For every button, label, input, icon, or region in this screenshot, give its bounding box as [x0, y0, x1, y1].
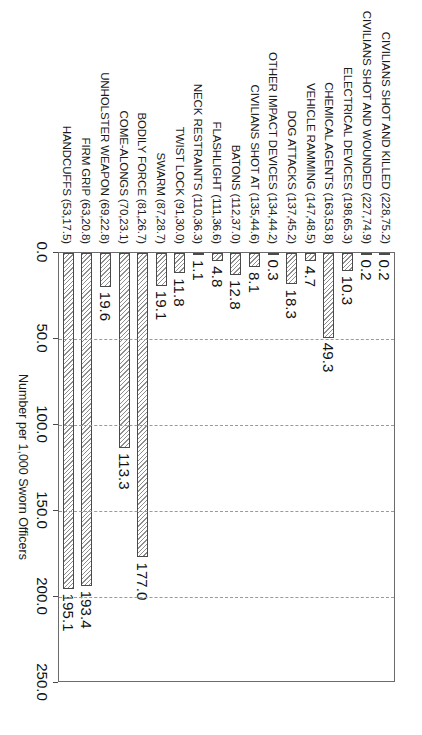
bar-row[interactable]: 0.2 [357, 253, 376, 681]
category-label: NECK RESTRAINTS (110,36.3) [189, 0, 208, 248]
gridline [59, 511, 394, 512]
category-label: FIRM GRIP (63,20.8) [77, 0, 96, 248]
gridline [59, 339, 394, 340]
bar-row[interactable]: 8.1 [245, 253, 264, 681]
category-label: VEHICLE RAMMING (147,48.5) [301, 0, 320, 248]
bar-value-label: 0.2 [376, 260, 393, 281]
bar-row[interactable]: 12.8 [227, 253, 246, 681]
bar-row[interactable]: 195.1 [59, 253, 78, 681]
bar[interactable] [119, 253, 130, 448]
bar[interactable] [268, 253, 279, 255]
category-label: CIVILIANS SHOT AND KILLED (228,75.2) [376, 0, 395, 248]
bar[interactable] [193, 253, 204, 255]
bar[interactable] [212, 253, 223, 261]
axis-tick [53, 510, 58, 511]
gridline [59, 597, 394, 598]
bar-value-label: 10.3 [339, 276, 356, 306]
bar-row[interactable]: 193.4 [78, 253, 97, 681]
bar-row[interactable]: 19.1 [152, 253, 171, 681]
axis-tick-label: 100.0 [34, 405, 51, 443]
axis-tick-label: 200.0 [34, 577, 51, 615]
category-label: UNHOLSTER WEAPON (69,22.8) [96, 0, 115, 248]
bar-value-label: 177.0 [134, 562, 151, 600]
category-axis-labels: CIVILIANS SHOT AND KILLED (228,75.2)CIVI… [58, 0, 395, 248]
bar[interactable] [63, 253, 74, 589]
bar-value-label: 19.6 [97, 292, 114, 322]
category-label: ELECTRICAL DEVICES (198,65.3) [339, 0, 358, 248]
bar[interactable] [230, 253, 241, 275]
bar-value-label: 0.2 [358, 260, 375, 281]
bar-value-label: 1.1 [190, 260, 207, 281]
bar-row[interactable]: 4.7 [301, 253, 320, 681]
plot-area: 0.20.210.349.34.718.30.38.112.84.81.111.… [58, 252, 395, 682]
bar-row[interactable]: 19.6 [96, 253, 115, 681]
axis-tick [53, 682, 58, 683]
bar-row[interactable]: 0.2 [375, 253, 394, 681]
bar-value-label: 113.3 [116, 453, 133, 490]
axis-tick [53, 252, 58, 253]
bar-row[interactable]: 0.3 [264, 253, 283, 681]
axis-tick-label: 250.0 [34, 663, 51, 701]
bar-rows: 0.20.210.349.34.718.30.38.112.84.81.111.… [59, 253, 394, 681]
axis-tick-label: 50.0 [34, 323, 51, 352]
x-axis-title: Number per 1,000 Sworn Officers [16, 252, 30, 682]
bar-value-label: 49.3 [320, 343, 337, 373]
category-label: BATONS (112,37.0) [227, 0, 246, 248]
bar-value-label: 18.3 [283, 289, 300, 319]
bar[interactable] [81, 253, 92, 586]
axis-tick [53, 424, 58, 425]
bar-row[interactable]: 11.8 [171, 253, 190, 681]
gridline [59, 425, 394, 426]
bar-row[interactable]: 49.3 [320, 253, 339, 681]
bar[interactable] [379, 253, 390, 255]
bar[interactable] [249, 253, 260, 267]
axis-tick-label: 150.0 [34, 491, 51, 529]
category-label: FLASHLIGHT (111,36.6) [208, 0, 227, 248]
bar-value-label: 0.3 [265, 260, 282, 281]
axis-tick-label: 0.0 [34, 242, 51, 263]
bar-value-label: 4.7 [302, 266, 319, 287]
bar[interactable] [100, 253, 111, 287]
bar[interactable] [361, 253, 372, 255]
bar-row[interactable]: 4.8 [208, 253, 227, 681]
bar[interactable] [286, 253, 297, 284]
category-label: CHEMICAL AGENTS (163,53.8) [320, 0, 339, 248]
category-label: CIVILIANS SHOT AND WOUNDED (227,74.9) [358, 0, 377, 248]
bar[interactable] [305, 253, 316, 261]
bar-row[interactable]: 1.1 [189, 253, 208, 681]
chart-rotation-wrapper: CIVILIANS SHOT AND KILLED (228,75.2)CIVI… [0, 0, 422, 735]
category-label: HANDCUFFS (53,17.5) [58, 0, 77, 248]
bar-value-label: 19.1 [153, 291, 170, 321]
category-label: OTHER IMPACT DEVICES (134,44.2) [264, 0, 283, 248]
category-label: COME-ALONGS (70,23.1) [114, 0, 133, 248]
bar[interactable] [156, 253, 167, 286]
bar-row[interactable]: 113.3 [115, 253, 134, 681]
bar-chart-figure: CIVILIANS SHOT AND KILLED (228,75.2)CIVI… [0, 0, 422, 735]
bar-value-label: 11.8 [172, 278, 189, 306]
bar-value-label: 8.1 [246, 272, 263, 293]
bar[interactable] [342, 253, 353, 271]
category-label: CIVILIANS SHOT AT (135,44.6) [245, 0, 264, 248]
bar-row[interactable]: 18.3 [282, 253, 301, 681]
bar-value-label: 12.8 [227, 280, 244, 310]
axis-tick [53, 596, 58, 597]
category-label: DOG ATTACKS (137,45.2) [283, 0, 302, 248]
bar-value-label: 195.1 [60, 594, 77, 632]
category-label: SWARM (87,28.7) [152, 0, 171, 248]
category-label: TWIST LOCK (91,30.0) [170, 0, 189, 248]
category-label: BODILY FORCE (81,26.7) [133, 0, 152, 248]
bar-row[interactable]: 10.3 [338, 253, 357, 681]
bar-row[interactable]: 177.0 [133, 253, 152, 681]
axis-tick [53, 338, 58, 339]
bar[interactable] [323, 253, 334, 338]
bar[interactable] [175, 253, 186, 273]
bar-value-label: 4.8 [209, 266, 226, 287]
